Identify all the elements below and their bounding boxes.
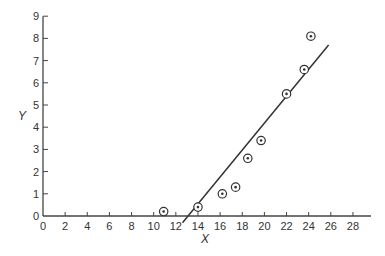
x-tick-label: 16: [214, 220, 226, 232]
y-axis-ticks: 0123456789: [33, 10, 48, 222]
y-tick-label: 0: [33, 210, 39, 222]
y-tick-label: 2: [33, 166, 39, 178]
x-tick-label: 10: [148, 220, 160, 232]
x-tick-label: 24: [303, 220, 315, 232]
y-tick-label: 6: [33, 77, 39, 89]
x-tick-label: 20: [258, 220, 270, 232]
y-tick-label: 1: [33, 188, 39, 200]
y-tick-label: 4: [33, 121, 39, 133]
x-tick-label: 8: [128, 220, 134, 232]
data-point-marker: [218, 190, 226, 198]
y-axis-title: Y: [18, 109, 27, 123]
data-point-marker: [282, 90, 290, 98]
y-tick-label: 9: [33, 10, 39, 22]
data-point-marker: [231, 183, 239, 191]
axes: [43, 16, 371, 216]
y-tick-label: 7: [33, 55, 39, 67]
x-tick-label: 12: [170, 220, 182, 232]
x-tick-label: 22: [280, 220, 292, 232]
x-tick-label: 18: [236, 220, 248, 232]
data-points: [159, 32, 315, 216]
data-point-marker: [307, 32, 315, 40]
y-tick-label: 5: [33, 99, 39, 111]
x-tick-label: 26: [325, 220, 337, 232]
x-axis-title: X: [200, 232, 210, 246]
x-tick-label: 2: [62, 220, 68, 232]
data-point-marker: [257, 136, 265, 144]
x-axis-ticks: 0246810121416182022242628: [40, 212, 359, 232]
data-point-marker: [300, 65, 308, 73]
data-point-marker: [194, 203, 202, 211]
data-point-marker: [159, 207, 167, 215]
x-tick-label: 0: [40, 220, 46, 232]
x-tick-label: 4: [84, 220, 90, 232]
x-tick-label: 14: [192, 220, 204, 232]
y-tick-label: 3: [33, 143, 39, 155]
x-tick-label: 6: [106, 220, 112, 232]
y-tick-label: 8: [33, 32, 39, 44]
x-tick-label: 28: [347, 220, 359, 232]
scatter-chart: 0246810121416182022242628 0123456789 X Y: [0, 0, 385, 256]
data-point-marker: [244, 154, 252, 162]
